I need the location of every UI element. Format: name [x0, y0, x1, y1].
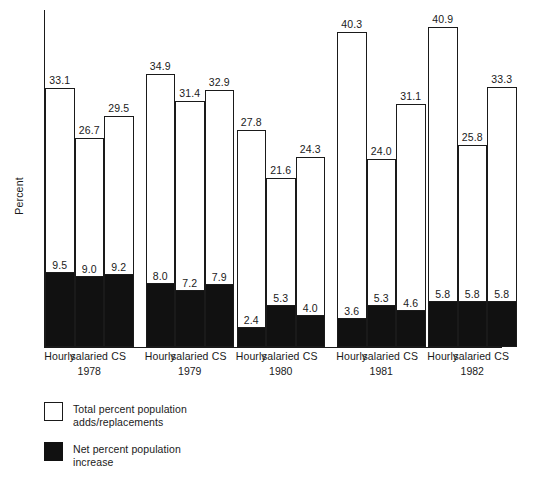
bar-total-value: 31.1 [400, 90, 421, 102]
bar-1980-hourly: 27.82.4 [237, 130, 267, 347]
x-tick-label-cs: CS [99, 350, 139, 362]
bar-total-value: 24.3 [300, 143, 321, 155]
bar-net-fill [176, 290, 204, 346]
bar-1981-cs: 31.14.6 [396, 104, 426, 347]
bar-1982-cs: 33.35.8 [487, 87, 517, 347]
bar-net-value: 4.6 [402, 298, 419, 309]
x-axis-year-label: 1978 [45, 365, 134, 377]
bar-net-fill [488, 301, 516, 346]
bar-net-fill [147, 283, 175, 346]
bar-total-value: 25.8 [462, 131, 483, 143]
bar-net-fill [338, 318, 366, 346]
bar-1978-salaried: 26.79.0 [75, 138, 105, 347]
bar-net-value: 8.0 [152, 271, 169, 282]
bar-net-value: 9.5 [51, 260, 68, 271]
bar-total-value: 32.9 [209, 76, 230, 88]
bar-total-value: 34.9 [150, 60, 171, 72]
bar-net-value: 5.8 [493, 289, 510, 300]
bar-net-value: 3.6 [343, 306, 360, 317]
bar-total-value: 33.3 [491, 73, 512, 85]
x-axis-group-1979: HourlysalariedCS1979 [146, 350, 235, 382]
legend-label-net: Net percent population increase [73, 442, 181, 468]
bar-net-fill [238, 327, 266, 346]
plot-area: 33.19.526.79.029.59.234.98.031.47.232.97… [0, 0, 546, 348]
x-axis-year-label: 1979 [146, 365, 235, 377]
bar-net-fill [429, 301, 457, 346]
x-axis-group-1982: HourlysalariedCS1982 [428, 350, 517, 382]
bar-total-value: 33.1 [49, 74, 70, 86]
bar-net-fill [206, 284, 234, 346]
bar-net-value: 7.9 [211, 272, 228, 283]
bar-net-value: 7.2 [181, 278, 198, 289]
bar-1980-cs: 24.34.0 [296, 157, 326, 347]
bar-net-value: 5.3 [272, 293, 289, 304]
bar-1979-salaried: 31.47.2 [175, 101, 205, 347]
x-tick-label-cs: CS [482, 350, 522, 362]
bar-net-value: 2.4 [243, 315, 260, 326]
bar-net-fill [76, 276, 104, 346]
legend-label-total-line2: adds/replacements [73, 416, 187, 429]
legend-item-net: Net percent population increase [44, 442, 344, 468]
x-axis-year-label: 1982 [428, 365, 517, 377]
bar-net-value: 5.8 [464, 289, 481, 300]
bar-net-value: 5.8 [434, 289, 451, 300]
bar-net-fill [105, 274, 133, 346]
bar-net-value: 4.0 [302, 303, 319, 314]
bar-total-value: 29.5 [108, 102, 129, 114]
bar-1978-cs: 29.59.2 [104, 116, 134, 347]
legend-label-net-line2: increase [73, 456, 181, 469]
x-axis-year-label: 1980 [237, 365, 326, 377]
bar-net-fill [297, 315, 325, 346]
bar-1979-hourly: 34.98.0 [146, 74, 176, 347]
bar-1981-hourly: 40.33.6 [337, 32, 367, 347]
x-tick-label-cs: CS [291, 350, 331, 362]
bar-1979-cs: 32.97.9 [205, 90, 235, 347]
legend-swatch-total-icon [44, 402, 63, 421]
legend-label-total-line1: Total percent population [73, 403, 187, 416]
bar-total-value: 40.3 [341, 18, 362, 30]
bar-total-value: 31.4 [179, 87, 200, 99]
x-axis-group-1980: HourlysalariedCS1980 [237, 350, 326, 382]
legend-label-net-line1: Net percent population [73, 443, 181, 456]
bar-chart: Percent 33.19.526.79.029.59.234.98.031.4… [0, 0, 546, 479]
bar-total-value: 27.8 [241, 116, 262, 128]
legend-swatch-net-icon [44, 442, 63, 461]
bar-1981-salaried: 24.05.3 [367, 159, 397, 347]
bar-total-value: 40.9 [432, 13, 453, 25]
bar-net-fill [459, 301, 487, 346]
bar-1980-salaried: 21.65.3 [266, 178, 296, 347]
bar-1982-hourly: 40.95.8 [428, 27, 458, 347]
bar-total-value: 26.7 [79, 124, 100, 136]
bar-net-value: 9.2 [110, 262, 127, 273]
bar-net-value: 9.0 [81, 264, 98, 275]
bar-1982-salaried: 25.85.8 [458, 145, 488, 347]
chart-legend: Total percent population adds/replacemen… [44, 402, 344, 479]
bar-net-fill [368, 305, 396, 346]
legend-label-total: Total percent population adds/replacemen… [73, 402, 187, 428]
bar-total-value: 21.6 [270, 164, 291, 176]
x-axis-year-label: 1981 [337, 365, 426, 377]
bar-net-fill [397, 310, 425, 346]
bar-net-value: 5.3 [373, 293, 390, 304]
bar-1978-hourly: 33.19.5 [45, 88, 75, 347]
x-axis-group-1981: HourlysalariedCS1981 [337, 350, 426, 382]
bar-net-fill [267, 305, 295, 346]
x-axis-group-1978: HourlysalariedCS1978 [45, 350, 134, 382]
bar-total-value: 24.0 [371, 145, 392, 157]
legend-item-total: Total percent population adds/replacemen… [44, 402, 344, 428]
bar-net-fill [46, 272, 74, 346]
